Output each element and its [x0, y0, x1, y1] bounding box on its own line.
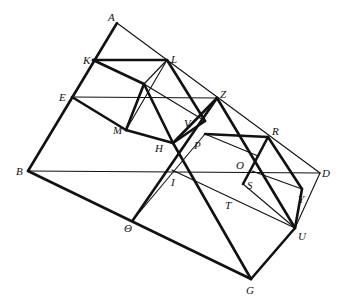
point-label-T: T — [225, 199, 232, 211]
point-label-B: B — [16, 165, 23, 177]
segment-M-H — [126, 130, 173, 143]
segment-N1-M — [126, 84, 144, 130]
point-label-E: E — [58, 91, 66, 103]
point-label-H: H — [154, 142, 164, 154]
segment-K-N1 — [93, 60, 144, 84]
segment-R-Y — [268, 137, 302, 189]
point-label-L: L — [170, 53, 177, 65]
point-label-P: P — [193, 139, 201, 151]
segment-B-G — [28, 171, 251, 279]
segment-L-V — [167, 60, 205, 121]
point-label-Z: Z — [220, 88, 227, 100]
point-label-M: M — [112, 124, 123, 136]
point-label-G: G — [246, 284, 254, 296]
point-label-R: R — [271, 125, 279, 137]
point-label-I: I — [170, 176, 176, 188]
point-label-U: U — [298, 230, 307, 242]
segment-P-R — [205, 134, 268, 137]
point-labels: AKLEZMVHPROSDBITYΘUG — [16, 11, 330, 296]
point-label-D: D — [321, 167, 330, 179]
segment-R-O — [258, 137, 268, 156]
segment-S-Y — [252, 171, 302, 189]
point-label-Theta: Θ — [124, 222, 132, 234]
segment-G-U — [251, 228, 295, 279]
point-label-Y: Y — [298, 193, 306, 205]
diagram-figure: AKLEZMVHPROSDBITYΘUG — [0, 0, 343, 296]
point-label-O: O — [236, 159, 244, 171]
point-label-S: S — [247, 179, 253, 191]
point-label-A: A — [107, 11, 115, 23]
segment-Z-Theta — [133, 98, 217, 220]
point-label-K: K — [82, 54, 91, 66]
geometry-diagram: AKLEZMVHPROSDBITYΘUG — [0, 0, 343, 296]
